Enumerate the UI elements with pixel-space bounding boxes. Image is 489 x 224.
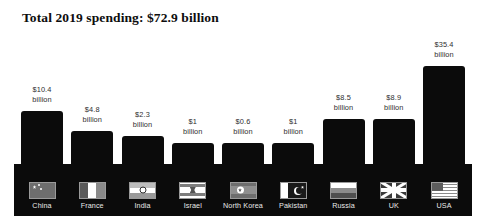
russia-flag-icon: [330, 182, 357, 199]
country-label-israel: Israel: [184, 202, 202, 210]
value-label-israel: $1 billion: [183, 117, 203, 136]
bar-group: $10.4 billion China $4.8 billion: [14, 30, 472, 216]
israel-flag-icon: [179, 182, 206, 199]
value-label-north-korea: $0.6 billion: [233, 117, 253, 136]
value-label-russia: $8.5 billion: [334, 93, 354, 112]
country-label-uk: UK: [389, 202, 399, 210]
bar-column-india[interactable]: $2.3 billion India: [121, 30, 165, 216]
bar-footer-china: China: [20, 182, 64, 210]
bar-footer-uk: UK: [372, 182, 416, 210]
bar-column-russia[interactable]: $8.5 billion Russia: [322, 30, 366, 216]
china-flag-icon: [29, 182, 56, 199]
bar-footer-russia: Russia: [322, 182, 366, 210]
north-korea-flag-icon: [230, 182, 257, 199]
country-label-north-korea: North Korea: [223, 202, 263, 210]
value-label-france: $4.8 billion: [82, 105, 102, 124]
value-label-usa: $35.4 billion: [434, 40, 454, 59]
bar-footer-north-korea: North Korea: [221, 182, 265, 210]
bar-footer-usa: USA: [422, 182, 466, 210]
bar-footer-pakistan: Pakistan: [271, 182, 315, 210]
country-label-france: France: [81, 202, 104, 210]
bar-column-pakistan[interactable]: $1 billion Pakistan: [271, 30, 315, 216]
country-label-pakistan: Pakistan: [279, 202, 307, 210]
country-label-china: China: [32, 202, 51, 210]
france-flag-icon: [79, 182, 106, 199]
usa-flag-icon: [431, 182, 458, 199]
pakistan-flag-icon: [280, 182, 307, 199]
bar-column-israel[interactable]: $1 billion Israel: [171, 30, 215, 216]
value-label-pakistan: $1 billion: [283, 117, 303, 136]
bar-column-north-korea[interactable]: $0.6 billion North Korea: [221, 30, 265, 216]
bar-footer-france: France: [70, 182, 114, 210]
bar-footer-israel: Israel: [171, 182, 215, 210]
uk-flag-icon: [380, 182, 407, 199]
chart-plot-area: $10.4 billion China $4.8 billion: [14, 30, 472, 216]
bar-column-uk[interactable]: $8.9 billion UK: [372, 30, 416, 216]
india-flag-icon: [129, 182, 156, 199]
country-label-russia: Russia: [332, 202, 355, 210]
value-label-india: $2.3 billion: [133, 110, 153, 129]
country-label-usa: USA: [436, 202, 451, 210]
value-label-china: $10.4 billion: [32, 85, 52, 104]
bar-column-china[interactable]: $10.4 billion China: [20, 30, 64, 216]
value-label-uk: $8.9 billion: [384, 93, 404, 112]
bar-column-france[interactable]: $4.8 billion France: [70, 30, 114, 216]
page-title: Total 2019 spending: $72.9 billion: [22, 10, 219, 26]
bar-footer-india: India: [121, 182, 165, 210]
country-label-india: India: [134, 202, 150, 210]
bar-column-usa[interactable]: $35.4 billion USA: [422, 30, 466, 216]
